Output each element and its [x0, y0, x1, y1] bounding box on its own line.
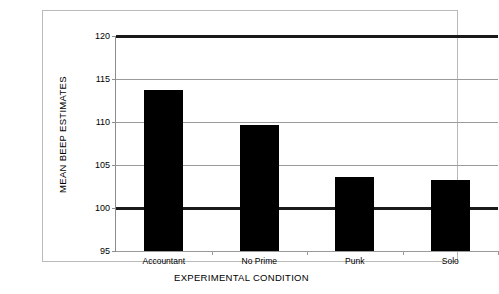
- y-tick-label: 100: [95, 203, 110, 213]
- y-tick-label: 95: [100, 246, 110, 256]
- y-tick-mark: [112, 36, 116, 37]
- x-category-label: Accountant: [142, 256, 185, 266]
- y-tick-label: 105: [95, 160, 110, 170]
- x-category-label: Solo: [442, 256, 459, 266]
- x-tick-mark: [307, 251, 308, 255]
- x-tick-mark: [403, 251, 404, 255]
- gridline-115: [116, 79, 498, 80]
- y-tick-mark: [112, 208, 116, 209]
- y-tick-label: 110: [96, 117, 110, 127]
- y-tick-label: 120: [95, 31, 110, 41]
- y-tick-mark: [112, 165, 116, 166]
- x-axis-title: EXPERIMENTAL CONDITION: [0, 272, 483, 283]
- bar-punk: [335, 177, 374, 251]
- y-tick-label: 115: [96, 74, 110, 84]
- bar-no-prime: [240, 125, 279, 251]
- x-category-label: Punk: [345, 256, 364, 266]
- y-tick-mark: [112, 122, 116, 123]
- y-axis-title: MEAN BEEP ESTIMATES: [57, 55, 68, 215]
- gridline-120: [116, 35, 498, 38]
- plot-area: 95100105110115120 AccountantNo PrimePunk…: [116, 36, 498, 251]
- bar-accountant: [144, 90, 183, 251]
- x-category-label: No Prime: [242, 256, 277, 266]
- bar-solo: [431, 180, 470, 251]
- x-tick-mark: [212, 251, 213, 255]
- y-tick-mark: [112, 79, 116, 80]
- chart-frame: MEAN BEEP ESTIMATES 95100105110115120 Ac…: [42, 10, 458, 262]
